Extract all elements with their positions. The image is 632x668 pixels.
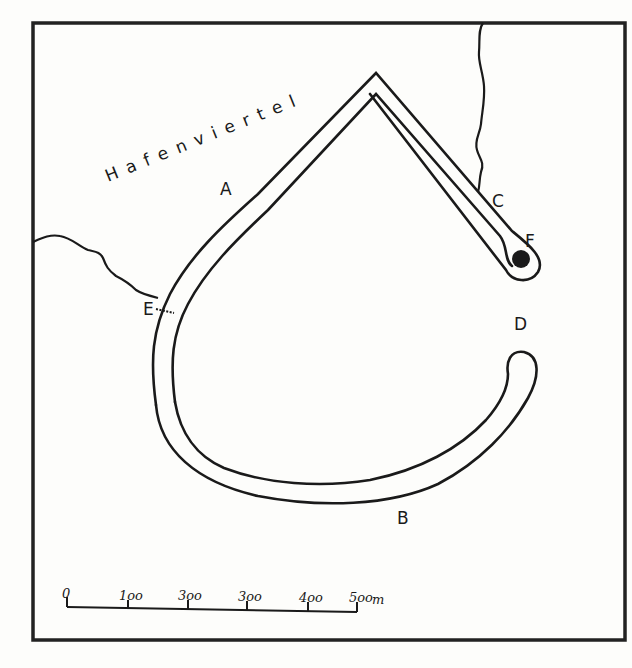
scale-unit: m [372, 592, 384, 607]
scale-tick-200: 3oo [178, 588, 202, 603]
point-label-a: A [220, 179, 232, 199]
coastline-north [476, 23, 484, 192]
scale-tick-500: 5oo [349, 590, 373, 605]
point-label-e: E [143, 299, 154, 319]
scale-tick-300: 3oo [238, 589, 262, 604]
southern-arm-outer [156, 352, 537, 504]
harbor-map: Hafenviertel A B C D E F 0 1oo 3oo 3oo 4… [0, 0, 632, 668]
map-frame [33, 23, 625, 640]
gate-hatch-e [156, 309, 174, 313]
coastline-west [33, 235, 158, 298]
scale-tick-0: 0 [62, 586, 70, 601]
breakwater-inner-line [173, 94, 512, 402]
point-label-f: F [525, 231, 535, 251]
point-label-d: D [514, 314, 527, 334]
scale-bar: 0 1oo 3oo 3oo 4oo 5oo m [62, 586, 384, 612]
district-label: Hafenviertel [102, 88, 307, 186]
scale-tick-100: 1oo [119, 588, 143, 603]
lighthouse-marker-icon [512, 250, 530, 268]
point-label-b: B [397, 508, 409, 528]
point-label-c: C [492, 191, 504, 211]
figure-caption [28, 652, 408, 662]
scale-tick-400: 4oo [298, 590, 323, 605]
